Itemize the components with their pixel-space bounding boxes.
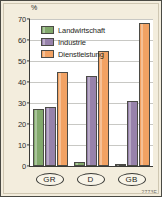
y-tick-mark (27, 60, 30, 61)
bar (86, 76, 97, 166)
bar (98, 51, 109, 167)
bar (115, 164, 126, 166)
legend-item: Industrie (41, 37, 105, 47)
x-category-d: D (77, 173, 105, 186)
figure-code: 2773E (142, 189, 157, 195)
y-tick-label: 30 (18, 99, 26, 108)
y-tick-mark (27, 39, 30, 40)
bar (33, 109, 44, 166)
bar (139, 23, 150, 166)
y-tick-label: 0 (22, 162, 26, 171)
y-tick-mark (27, 81, 30, 82)
x-category-gr: GR (36, 173, 64, 186)
y-tick-label: 40 (18, 78, 26, 87)
x-category-label: GR (43, 175, 55, 184)
y-tick-label: 20 (18, 120, 26, 129)
legend-swatch (41, 50, 54, 58)
y-tick-mark (27, 165, 30, 166)
y-tick-label: 10 (18, 141, 26, 150)
legend-item: Landwirtschaft (41, 25, 105, 35)
chart-figure: % 010203040506070 LandwirtschaftIndustri… (0, 0, 162, 197)
y-tick-label: 70 (18, 15, 26, 24)
x-category-label: GB (126, 175, 138, 184)
y-tick-mark (27, 102, 30, 103)
y-tick-label: 60 (18, 36, 26, 45)
y-axis-unit-label: % (31, 4, 37, 11)
y-tick-mark (27, 18, 30, 19)
x-category-gb: GB (118, 173, 146, 186)
chart-legend: LandwirtschaftIndustrieDienstleistung (39, 23, 108, 63)
legend-swatch (41, 38, 54, 46)
y-tick-label: 50 (18, 57, 26, 66)
bar (57, 72, 68, 167)
bar (74, 162, 85, 166)
legend-swatch (41, 26, 54, 34)
bar (127, 101, 138, 166)
bar-group (115, 19, 150, 166)
bar (45, 107, 56, 166)
y-tick-mark (27, 144, 30, 145)
legend-label: Industrie (58, 38, 86, 47)
x-category-label: D (88, 175, 94, 184)
legend-label: Dienstleistung (58, 50, 104, 59)
y-tick-mark (27, 123, 30, 124)
legend-label: Landwirtschaft (58, 26, 105, 35)
legend-item: Dienstleistung (41, 49, 105, 59)
